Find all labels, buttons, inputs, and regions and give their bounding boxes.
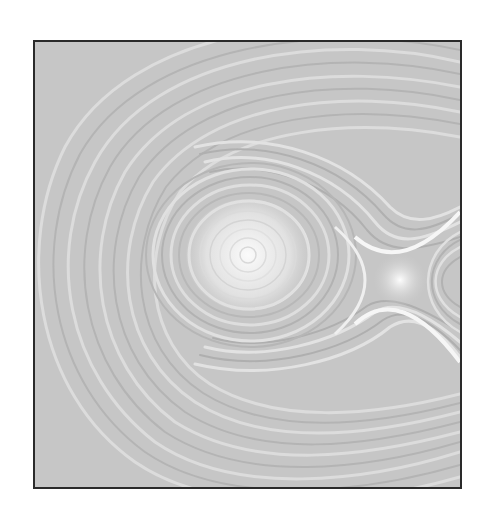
figure-canvas bbox=[0, 0, 483, 512]
noise-texture bbox=[35, 42, 460, 487]
flow-visualization-frame bbox=[33, 40, 462, 489]
flow-field-image bbox=[35, 42, 460, 487]
